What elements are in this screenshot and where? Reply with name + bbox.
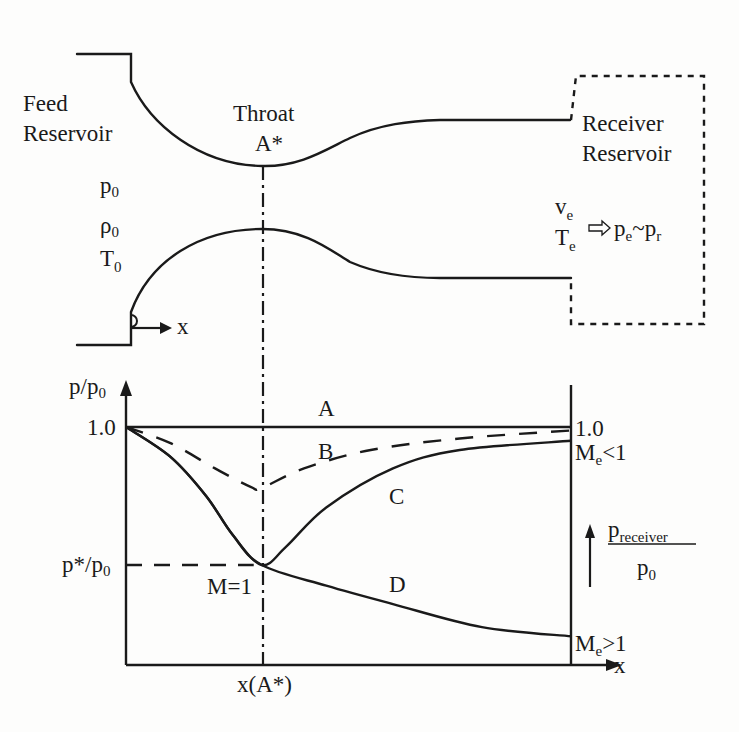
curve-label-b: B	[318, 439, 333, 464]
x-arrow-icon	[160, 322, 172, 334]
exit-velocity-label: ve	[555, 194, 574, 223]
inlet-x-label: x	[177, 314, 189, 339]
curve-d	[126, 427, 571, 636]
y-axis-arrow-icon	[120, 380, 132, 396]
x-axis-label: x	[614, 653, 626, 678]
x-tick-label-throat: x(A*)	[237, 672, 292, 697]
hollow-arrow-icon	[589, 221, 610, 235]
stagnation-temperature-label: T0	[100, 246, 122, 275]
exit-pressure-relation: pe~pr	[614, 216, 661, 244]
up-arrow-icon	[585, 524, 595, 538]
curve-label-a: A	[318, 396, 335, 421]
right-label-subsonic-exit: Me<1	[575, 440, 627, 468]
right-label-1-0: 1.0	[575, 416, 604, 441]
curve-label-c: C	[389, 484, 404, 509]
feed-reservoir-label-1: Feed	[23, 91, 68, 116]
receiver-pressure-arrow	[585, 524, 595, 587]
exit-temperature-label: Te	[555, 225, 576, 254]
throat-area-label: A*	[255, 131, 283, 156]
curve-label-d: D	[389, 572, 406, 597]
receiver-reservoir-label-1: Receiver	[582, 111, 664, 136]
receiver-ratio-denominator: p0	[637, 555, 656, 583]
nozzle-diagram: x Feed Reservoir Throat A* Receiver Rese…	[0, 0, 739, 732]
curve-c	[126, 427, 571, 565]
right-label-supersonic-exit: Me>1	[575, 631, 627, 659]
pressure-plot: p/p0 1.0 p*/p0 x x(A*) ABCD 1.0 Me<1 Me>…	[62, 374, 696, 697]
stagnation-density-label: ρ0	[100, 213, 119, 240]
nozzle-top-wall	[77, 54, 570, 166]
y-axis-label: p/p0	[69, 374, 106, 401]
throat-label: Throat	[233, 101, 295, 126]
inlet-x-axis-marker	[131, 315, 172, 334]
y-tick-label-1: 1.0	[87, 415, 116, 440]
receiver-ratio-numerator: preceiver	[608, 517, 668, 545]
sonic-point-label: M=1	[207, 574, 252, 599]
feed-reservoir-label-2: Reservoir	[23, 121, 113, 146]
receiver-reservoir-label-2: Reservoir	[582, 141, 672, 166]
y-tick-label-pstar: p*/p0	[62, 552, 110, 579]
stagnation-pressure-label: p0	[100, 173, 119, 200]
diagram-svg: x Feed Reservoir Throat A* Receiver Rese…	[0, 0, 739, 732]
